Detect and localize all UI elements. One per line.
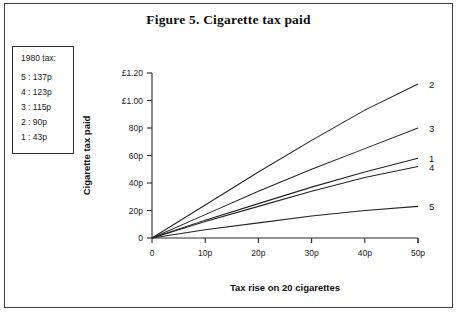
- x-axis-tick-label: 10p: [198, 248, 212, 258]
- x-axis-tick-label: 30p: [305, 248, 319, 258]
- x-axis-tick-label: 20p: [251, 248, 265, 258]
- figure-container: Figure 5. Cigarette tax paid 1980 tax: 5…: [0, 0, 457, 312]
- y-axis-tick-label: 0: [138, 233, 143, 243]
- y-axis-title: Cigarette tax paid: [81, 115, 92, 195]
- series-label-4: 4: [429, 162, 434, 173]
- x-axis-tick-label: 40p: [358, 248, 372, 258]
- y-axis-tick-label: 80p: [129, 123, 143, 133]
- y-axis-tick-label: 60p: [129, 151, 143, 161]
- series-label-2: 2: [429, 79, 434, 90]
- series-line-4: [152, 167, 418, 239]
- series-label-5: 5: [429, 201, 434, 212]
- series-label-3: 3: [429, 123, 434, 134]
- series-line-3: [152, 128, 418, 238]
- x-axis-title: Tax rise on 20 cigarettes: [230, 282, 340, 293]
- series-line-2: [152, 84, 418, 238]
- x-axis-tick-label: 0: [150, 248, 155, 258]
- y-axis-tick-label: 40p: [129, 178, 143, 188]
- y-axis-tick-label: £1.00: [122, 96, 144, 106]
- y-axis-tick-label: £1.20: [122, 68, 144, 78]
- x-axis-tick-label: 50p: [411, 248, 425, 258]
- y-axis-tick-label: 20p: [129, 206, 143, 216]
- chart-plot: 020p40p60p80p£1.00£1.20010p20p30p40p50p2…: [0, 0, 457, 312]
- series-line-5: [152, 206, 418, 238]
